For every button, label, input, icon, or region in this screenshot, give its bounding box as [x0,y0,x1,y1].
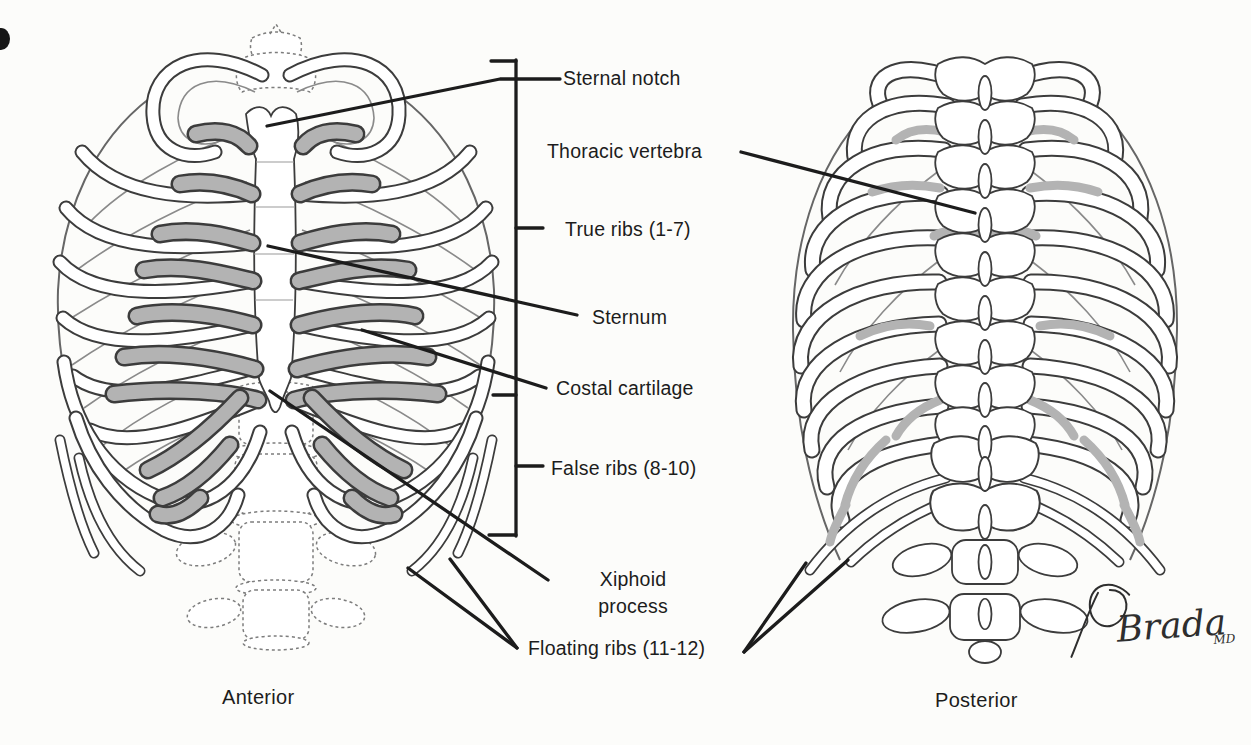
leader-floating-ribs-posterior [744,560,848,652]
signature-credential: MD [1212,631,1236,647]
leader-floating-ribs-anterior [408,559,517,648]
scan-edge-mark [0,28,10,50]
anterior-ribcage-drawing [58,24,494,650]
label-sternum: Sternum [592,306,667,329]
label-xiphoid-process: Xiphoid process [585,566,681,620]
label-true-ribs: True ribs (1-7) [565,218,691,241]
label-sternal-notch: Sternal notch [563,67,681,90]
posterior-ribcage-drawing [793,57,1177,663]
label-thoracic-vertebra: Thoracic vertebra [547,140,702,163]
ribcage-illustration: Brada MD [0,0,1251,745]
artist-signature: Brada MD [1067,576,1237,657]
caption-posterior: Posterior [935,689,1018,712]
label-false-ribs: False ribs (8-10) [551,457,696,480]
label-floating-ribs: Floating ribs (11-12) [528,637,705,660]
caption-anterior: Anterior [222,686,294,709]
label-costal-cartilage: Costal cartilage [556,377,694,400]
anatomy-figure: Brada MD Sternal notch Thoracic vertebra… [0,0,1251,745]
signature-name: Brada [1114,601,1227,650]
cervical-vertebrae-outline [236,24,315,92]
